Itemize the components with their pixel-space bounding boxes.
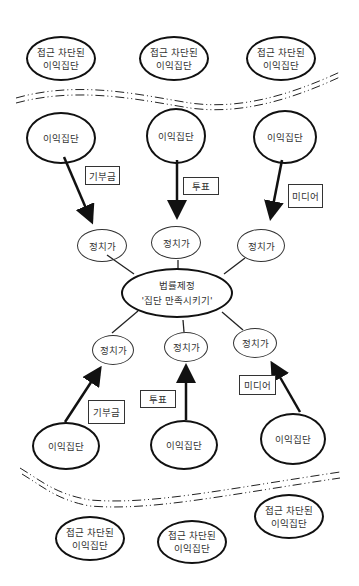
interest-group-top-2: 이익집단 [146, 108, 206, 164]
interest-group-bottom-2: 이익집단 [150, 420, 218, 470]
channel-vote-top: 투표 [183, 177, 219, 195]
channel-vote-bottom: 투표 [140, 390, 176, 408]
channel-donation-bottom: 기부금 [88, 400, 125, 424]
channel-donation-top: 기부금 [85, 166, 120, 185]
politician-bottom-2: 정치가 [164, 332, 208, 362]
channel-media-top: 미디어 [288, 184, 323, 208]
politician-bottom-3: 정치가 [233, 328, 277, 358]
lawmaking-center: 법률제정'집단 만족시키기' [121, 268, 233, 318]
blocked-interest-group-bottom-2: 접근 차단된이익집단 [157, 520, 227, 564]
blocked-interest-group-bottom-3: 접근 차단된이익집단 [254, 494, 324, 539]
interest-group-bottom-1: 이익집단 [32, 422, 100, 470]
politician-top-2: 정치가 [151, 226, 201, 259]
interest-group-top-3: 이익집단 [253, 110, 317, 164]
interest-group-top-1: 이익집단 [26, 112, 96, 164]
blocked-interest-group-top-2: 접근 차단된이익집단 [139, 36, 209, 81]
politician-top-1: 정치가 [77, 229, 127, 262]
politician-bottom-1: 정치가 [92, 335, 134, 365]
blocked-interest-group-top-3: 접근 차단된이익집단 [246, 36, 316, 81]
blocked-interest-group-bottom-1: 접근 차단된이익집단 [55, 516, 125, 561]
blocked-interest-group-top-1: 접근 차단된이익집단 [26, 36, 96, 81]
politician-top-3: 정치가 [237, 229, 285, 262]
channel-media-bottom: 미디어 [239, 375, 276, 395]
interest-group-bottom-3: 이익집단 [260, 413, 326, 465]
